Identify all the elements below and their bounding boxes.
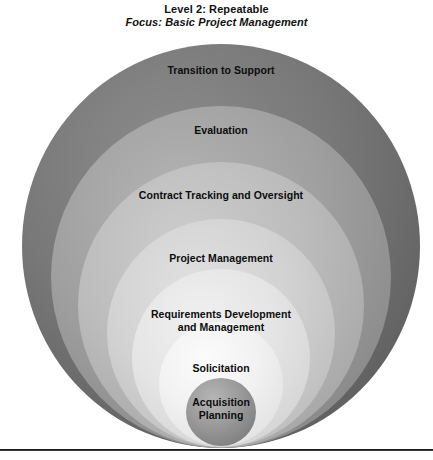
bottom-divider xyxy=(0,449,433,451)
nested-ellipses-svg xyxy=(0,0,433,460)
ring-acquisition-planning[interactable] xyxy=(186,378,256,446)
maturity-ellipse-diagram: Transition to SupportEvaluationContract … xyxy=(0,0,433,460)
ring-shape-group xyxy=(22,44,420,448)
